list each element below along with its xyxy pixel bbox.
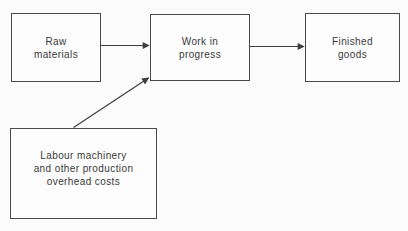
node-finished-goods-label: Finished goods: [332, 35, 373, 61]
flowchart-diagram: Raw materials Work in progress Finished …: [0, 0, 408, 231]
node-raw-materials: Raw materials: [11, 13, 101, 82]
node-overhead-costs-label: Labour machinery and other production ov…: [34, 149, 134, 188]
edge-overhead-to-wip-arrow: [74, 78, 149, 128]
node-raw-materials-label: Raw materials: [34, 35, 78, 61]
node-work-in-progress: Work in progress: [150, 14, 250, 81]
node-work-in-progress-label: Work in progress: [179, 35, 221, 61]
node-overhead-costs: Labour machinery and other production ov…: [10, 128, 157, 219]
node-finished-goods: Finished goods: [305, 13, 400, 82]
